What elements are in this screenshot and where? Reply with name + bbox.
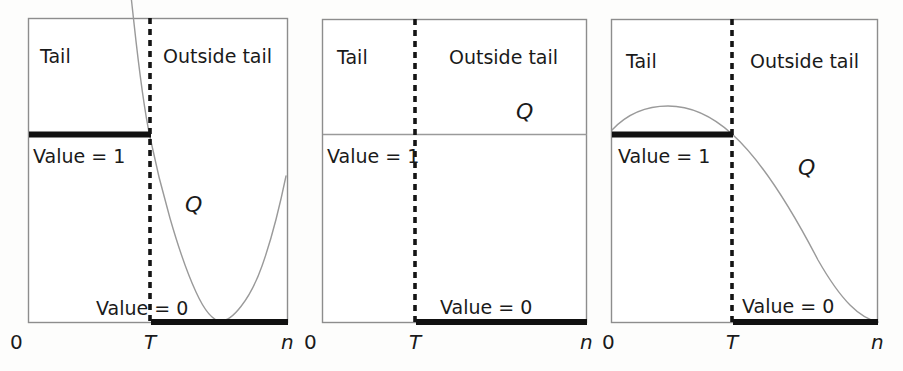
- panel-3-outside-tail-label: Outside tail: [750, 50, 859, 72]
- panel-2-axis-n-label: n: [580, 330, 593, 354]
- panel-3-q-label: Q: [798, 155, 815, 180]
- panel-1-axis-zero-label: 0: [10, 330, 23, 354]
- panel-2-axis-zero-label: 0: [304, 330, 317, 354]
- panel-1-q-label: Q: [185, 192, 202, 217]
- panel-3-axis-n-label: n: [871, 330, 884, 354]
- panel-2: Tail Outside tail Value = 1 Value = 0 Q …: [301, 0, 602, 371]
- panel-1-axis-t-label: T: [144, 330, 158, 354]
- panel-2-value-one-label: Value = 1: [327, 145, 419, 167]
- panel-3: Tail Outside tail Value = 1 Value = 0 Q …: [602, 0, 903, 371]
- panel-3-tail-label: Tail: [625, 50, 657, 72]
- figure-root: Tail Outside tail Value = 1 Value = 0 Q …: [0, 0, 903, 371]
- panel-3-value-zero-label: Value = 0: [742, 295, 834, 317]
- panel-2-q-label: Q: [516, 99, 533, 124]
- panel-2-value-zero-label: Value = 0: [440, 296, 532, 318]
- panel-1: Tail Outside tail Value = 1 Value = 0 Q …: [0, 0, 301, 371]
- panel-3-axis-zero-label: 0: [602, 330, 615, 354]
- panel-1-value-zero-label: Value = 0: [96, 297, 188, 319]
- panel-1-tail-label: Tail: [39, 45, 71, 67]
- panel-1-outside-tail-label: Outside tail: [163, 45, 272, 67]
- panel-1-value-one-label: Value = 1: [33, 145, 125, 167]
- panel-1-axis-n-label: n: [281, 330, 294, 354]
- panel-3-axis-t-label: T: [726, 330, 740, 354]
- panel-3-value-one-label: Value = 1: [618, 145, 710, 167]
- panel-2-outside-tail-label: Outside tail: [449, 46, 558, 68]
- panel-2-tail-label: Tail: [336, 46, 368, 68]
- panel-2-axis-t-label: T: [409, 330, 423, 354]
